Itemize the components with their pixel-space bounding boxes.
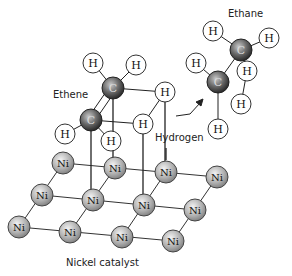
svg-text:Ni: Ni (57, 158, 69, 169)
svg-text:Ni: Ni (36, 190, 48, 201)
svg-text:Ni: Ni (13, 222, 25, 233)
svg-text:H: H (106, 135, 116, 148)
svg-text:Ni: Ni (64, 227, 76, 238)
svg-text:Ni: Ni (109, 163, 121, 174)
ethene-label: Ethene (53, 89, 88, 100)
svg-text:H: H (160, 86, 170, 99)
svg-text:Ni: Ni (87, 195, 99, 206)
svg-text:H: H (60, 128, 70, 141)
svg-text:H: H (264, 32, 274, 45)
svg-text:H: H (88, 57, 98, 70)
svg-text:H: H (213, 123, 223, 136)
svg-text:C: C (87, 114, 95, 127)
nickel-catalyst-label: Nickel catalyst (66, 257, 139, 268)
svg-text:H: H (236, 98, 246, 111)
svg-text:Ni: Ni (116, 232, 128, 243)
svg-text:H: H (131, 59, 141, 72)
svg-text:Ni: Ni (160, 167, 172, 178)
svg-text:C: C (237, 44, 245, 57)
svg-text:Ni: Ni (189, 205, 201, 216)
ethane-label: Ethane (228, 8, 263, 19)
svg-text:H: H (242, 65, 252, 78)
hydrogen-label: Hydrogen (155, 132, 204, 143)
svg-text:H: H (191, 57, 201, 70)
svg-text:H: H (208, 25, 218, 38)
svg-text:C: C (109, 82, 117, 95)
reaction-arrow (176, 99, 203, 116)
svg-text:Ni: Ni (167, 236, 179, 247)
svg-text:H: H (138, 118, 148, 131)
svg-text:C: C (214, 76, 222, 89)
hydrogenation-diagram: Ni Ni Ni Ni Ni Ni Ni Ni Ni Ni Ni Ni H H … (0, 0, 292, 276)
svg-text:Ni: Ni (138, 200, 150, 211)
svg-text:Ni: Ni (211, 172, 223, 183)
